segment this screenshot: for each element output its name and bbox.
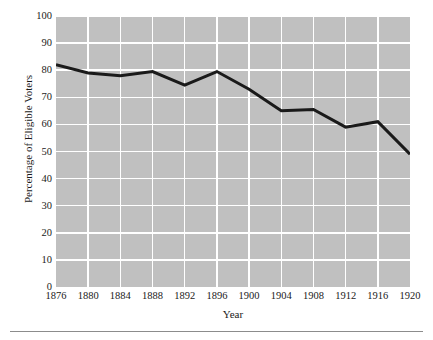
y-tick-label: 90 bbox=[6, 38, 52, 49]
x-tick-label: 1920 bbox=[400, 291, 421, 302]
y-tick-label: 60 bbox=[6, 119, 52, 130]
x-tick-label: 1900 bbox=[239, 291, 260, 302]
y-tick-label: 20 bbox=[6, 228, 52, 239]
x-tick-label: 1916 bbox=[367, 291, 388, 302]
voter-turnout-line bbox=[56, 65, 410, 154]
y-axis-label-wrapper: Percentage of Eligible Voters bbox=[0, 0, 1, 1]
y-tick-label: 70 bbox=[6, 92, 52, 103]
line-series bbox=[56, 16, 410, 287]
y-tick-label: 50 bbox=[6, 146, 52, 157]
y-tick-label: 10 bbox=[6, 255, 52, 266]
x-axis-title: Year bbox=[56, 308, 410, 320]
x-tick-label: 1888 bbox=[142, 291, 163, 302]
x-axis-tick-labels: 1876188018841888189218961900190419081912… bbox=[56, 291, 410, 307]
x-tick-label: 1896 bbox=[206, 291, 227, 302]
y-tick-label: 30 bbox=[6, 200, 52, 211]
y-axis-tick-labels: 0102030405060708090100 bbox=[0, 16, 52, 287]
x-tick-label: 1904 bbox=[271, 291, 292, 302]
x-tick-label: 1908 bbox=[303, 291, 324, 302]
x-tick-label: 1880 bbox=[78, 291, 99, 302]
footer-rule bbox=[10, 331, 423, 332]
x-tick-label: 1884 bbox=[110, 291, 131, 302]
y-tick-label: 100 bbox=[6, 11, 52, 22]
plot-area bbox=[56, 16, 410, 287]
x-tick-label: 1892 bbox=[174, 291, 195, 302]
y-tick-label: 40 bbox=[6, 173, 52, 184]
y-tick-label: 80 bbox=[6, 65, 52, 76]
x-tick-label: 1912 bbox=[335, 291, 356, 302]
x-tick-label: 1876 bbox=[46, 291, 67, 302]
chart-figure: Percentage of Eligible Voters 0102030405… bbox=[0, 0, 433, 340]
